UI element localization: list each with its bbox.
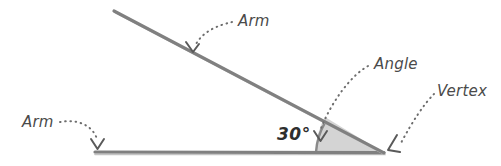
arm-bottom-line — [95, 152, 384, 153]
vertex-label: Vertex — [437, 82, 487, 100]
arm-bottom-leader-line — [60, 121, 97, 139]
angle-diagram-figure: Arm Arm Angle Vertex 30° — [0, 0, 501, 166]
arm-top-line — [114, 11, 384, 153]
arm-bottom-arrow-icon — [91, 139, 104, 149]
angle-label: Angle — [373, 55, 418, 73]
arm-bottom-line-group — [95, 152, 384, 154]
arm-bottom-leader — [60, 121, 104, 149]
vertex-arrow-icon — [388, 135, 400, 152]
arm-top-line-group — [114, 11, 385, 155]
angle-value-label: 30° — [277, 124, 311, 144]
arm-top-leader-line — [196, 22, 232, 44]
arm-top-label: Arm — [237, 12, 270, 30]
arm-top-leader — [186, 22, 232, 52]
vertex-leader — [388, 94, 434, 152]
diagram-canvas: Arm Arm Angle Vertex 30° — [0, 0, 501, 166]
vertex-leader-line — [401, 94, 434, 143]
arm-bottom-label: Arm — [21, 113, 54, 131]
